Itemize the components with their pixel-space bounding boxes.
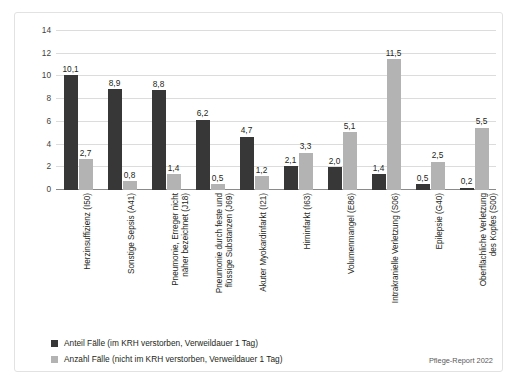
bar-nicht-verstorben xyxy=(123,181,137,190)
bar-value-label: 8,9 xyxy=(109,79,121,87)
bar-value-label: 5,1 xyxy=(344,122,356,130)
category-axis-labels: Herzinsuffizienz (I50)Sonstige Sepsis (A… xyxy=(56,193,496,331)
y-axis-tick-label: 6 xyxy=(46,116,51,126)
bar-nicht-verstorben xyxy=(431,162,445,190)
bar-value-label: 3,3 xyxy=(300,142,312,150)
category-label: Intrakranielle Verletzung (S06) xyxy=(391,193,421,325)
bar-verstorben xyxy=(284,166,298,190)
bar-group: 10,12,7 xyxy=(64,31,93,190)
bar-verstorben xyxy=(108,89,122,190)
y-axis-tick-label: 8 xyxy=(46,93,51,103)
category-label: Akuter Myokardinfarkt (I21) xyxy=(259,193,289,325)
bar-value-label: 5,5 xyxy=(476,117,488,125)
bar-series-container: 10,12,78,90,88,81,46,20,54,71,22,13,32,0… xyxy=(56,31,496,190)
bar-group: 2,05,1 xyxy=(328,31,357,190)
bar-value-label: 0,2 xyxy=(461,177,473,185)
bar-nicht-verstorben xyxy=(387,59,401,190)
legend-swatch xyxy=(51,356,58,363)
bar-nicht-verstorben xyxy=(255,176,269,190)
y-axis-tick-label: 10 xyxy=(42,70,51,80)
bar-group: 8,90,8 xyxy=(108,31,137,190)
y-axis-tick-label: 0 xyxy=(46,184,51,194)
bar-value-label: 6,2 xyxy=(197,109,209,117)
bar-value-label: 0,5 xyxy=(212,174,224,182)
chart-legend: Anteil Fälle (im KRH verstorben, Verweil… xyxy=(51,335,481,367)
legend-label: Anteil Fälle (im KRH verstorben, Verweil… xyxy=(64,338,258,348)
bar-verstorben xyxy=(460,188,474,190)
plot-area: 02468101214 10,12,78,90,88,81,46,20,54,7… xyxy=(56,31,496,190)
bar-group: 2,13,3 xyxy=(284,31,313,190)
y-axis-tick-label: 4 xyxy=(46,139,51,149)
bar-value-label: 2,1 xyxy=(285,156,297,164)
category-label: Pneumonie durch feste undflüssige Substa… xyxy=(215,193,245,325)
bar-value-label: 2,7 xyxy=(80,149,92,157)
chart-figure: 02468101214 10,12,78,90,88,81,46,20,54,7… xyxy=(14,12,503,372)
category-label: Epilepsie (G40) xyxy=(435,193,465,325)
bar-value-label: 1,4 xyxy=(168,164,180,172)
source-note: Pflege-Report 2022 xyxy=(429,356,493,365)
legend-item[interactable]: Anteil Fälle (im KRH verstorben, Verweil… xyxy=(51,335,481,351)
legend-label: Anzahl Fälle (nicht im KRH verstorben, V… xyxy=(64,354,282,364)
bar-nicht-verstorben xyxy=(343,132,357,190)
bar-value-label: 10,1 xyxy=(62,65,78,73)
bar-value-label: 1,2 xyxy=(256,166,268,174)
bar-verstorben xyxy=(372,174,386,190)
bar-verstorben xyxy=(328,167,342,190)
category-label: Volumenmangel (E86) xyxy=(347,193,377,325)
bar-nicht-verstorben xyxy=(475,128,489,190)
category-label: Herzinsuffizienz (I50) xyxy=(83,193,113,325)
bar-value-label: 2,5 xyxy=(432,151,444,159)
bar-nicht-verstorben xyxy=(211,184,225,190)
bar-group: 4,71,2 xyxy=(240,31,269,190)
bar-value-label: 0,5 xyxy=(417,174,429,182)
category-label: Oberflächliche Verletzungdes Kopfes (S00… xyxy=(479,193,509,325)
category-label: Hirninfarkt (I63) xyxy=(303,193,333,325)
bar-value-label: 4,7 xyxy=(241,126,253,134)
bar-value-label: 11,5 xyxy=(386,49,402,57)
bar-verstorben xyxy=(152,90,166,190)
bar-value-label: 1,4 xyxy=(373,164,385,172)
bar-verstorben xyxy=(64,75,78,190)
y-axis-tick-label: 14 xyxy=(42,25,51,35)
category-label: Pneumonie, Erreger nichtnäher bezeichnet… xyxy=(171,193,201,325)
y-axis-tick-label: 12 xyxy=(42,48,51,58)
bar-group: 0,52,5 xyxy=(416,31,445,190)
bar-group: 6,20,5 xyxy=(196,31,225,190)
bar-value-label: 0,8 xyxy=(124,171,136,179)
bar-group: 0,25,5 xyxy=(460,31,489,190)
bar-verstorben xyxy=(416,184,430,190)
bar-nicht-verstorben xyxy=(79,159,93,190)
y-axis-tick-label: 2 xyxy=(46,161,51,171)
category-label: Sonstige Sepsis (A41) xyxy=(127,193,157,325)
bar-nicht-verstorben xyxy=(299,153,313,190)
bar-verstorben xyxy=(240,137,254,190)
legend-swatch xyxy=(51,340,58,347)
legend-item[interactable]: Anzahl Fälle (nicht im KRH verstorben, V… xyxy=(51,351,481,367)
bar-group: 8,81,4 xyxy=(152,31,181,190)
bar-verstorben xyxy=(196,120,210,190)
bar-group: 1,411,5 xyxy=(372,31,401,190)
bar-value-label: 2,0 xyxy=(329,157,341,165)
bar-value-label: 8,8 xyxy=(153,80,165,88)
bar-nicht-verstorben xyxy=(167,174,181,190)
